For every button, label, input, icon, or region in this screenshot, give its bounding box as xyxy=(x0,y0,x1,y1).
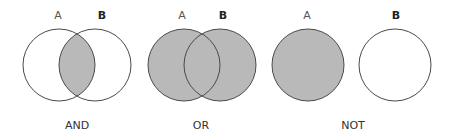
operator-label-not: NOT xyxy=(341,119,365,132)
boolean-venn-diagram: A B AND A B OR A B NOT xyxy=(0,0,451,140)
operator-label-or: OR xyxy=(193,119,210,132)
set-label-a: A xyxy=(303,9,311,22)
operator-label-and: AND xyxy=(65,119,89,132)
panel-or: A B OR xyxy=(148,9,256,132)
panel-and: A B AND xyxy=(23,9,131,132)
set-label-b: B xyxy=(392,9,400,22)
circle-b-empty xyxy=(359,29,431,101)
set-label-a: A xyxy=(54,9,62,22)
set-label-b: B xyxy=(98,9,106,22)
set-label-a: A xyxy=(178,9,186,22)
panel-not: A B NOT xyxy=(272,9,431,132)
set-label-b: B xyxy=(219,9,227,22)
circle-a-shaded xyxy=(272,29,344,101)
